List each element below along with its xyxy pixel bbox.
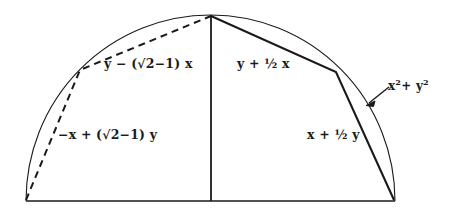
circle-eq-exp2: 2 (423, 77, 429, 87)
label-upper-left: y − (√2−1) x (104, 58, 193, 71)
geometry-figure: y − (√2−1) x y + ½ x −x + (√2−1) y x + ½… (0, 0, 459, 216)
label-upper-right: y + ½ x (237, 58, 290, 71)
figure-canvas (0, 0, 459, 216)
dashed-approximation-path (26, 16, 211, 200)
annotation-arrow (366, 87, 389, 107)
label-lower-left: −x + (√2−1) y (58, 129, 157, 142)
solid-approximation-path (211, 16, 394, 200)
label-circle-equation: x2+ y2 (388, 80, 429, 92)
label-lower-right: x + ½ y (307, 129, 360, 142)
circle-eq-mid: + y (401, 79, 423, 93)
